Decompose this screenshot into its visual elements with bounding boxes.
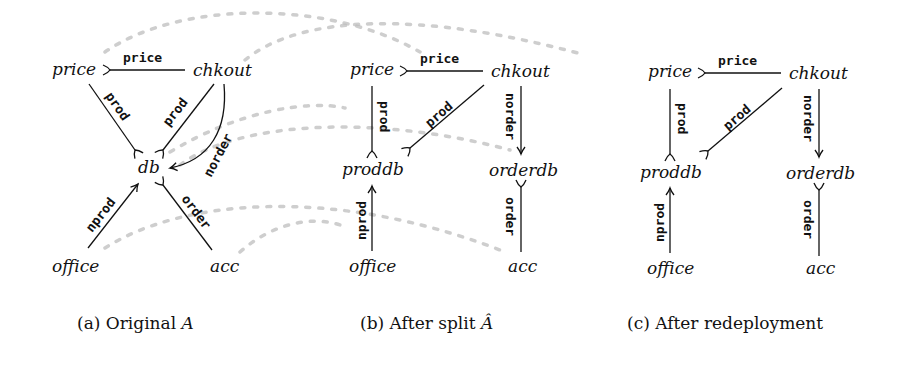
mapping-curve — [240, 221, 340, 252]
node-price: price — [648, 61, 692, 81]
mapping-curve — [105, 206, 500, 250]
edge-label-norder: norder — [801, 95, 816, 142]
mapping-curve — [245, 24, 585, 60]
caption-c-text: (c) After redeployment — [627, 313, 823, 333]
panel-b-split: price chkout proddb orderdb office acc p… — [342, 51, 558, 276]
node-proddb: proddb — [342, 159, 404, 179]
node-acc: acc — [508, 256, 538, 276]
caption-a-text: (a) Original — [77, 313, 182, 333]
edge-label-prod: prod — [103, 89, 133, 123]
panel-c-redeployment: price chkout proddb orderdb office acc p… — [640, 53, 855, 278]
edge-label-nprod: nprod — [652, 203, 667, 242]
node-acc: acc — [806, 258, 836, 278]
edge-label-price: price — [420, 51, 459, 66]
edge-label-order: order — [503, 197, 518, 236]
edge-label-norder: norder — [200, 131, 235, 180]
edge-label-nprod: nprod — [354, 201, 369, 240]
node-orderdb: orderdb — [786, 163, 855, 183]
caption-b: (b) After split Â — [360, 313, 493, 333]
node-office: office — [647, 258, 694, 278]
edge-label-price: price — [123, 50, 162, 65]
edge-label-norder: norder — [503, 93, 518, 140]
edge-label-prod: prod — [160, 95, 191, 129]
edge-label-prod: prod — [422, 98, 455, 130]
node-chkout: chkout — [193, 60, 252, 80]
caption-b-text: (b) After split — [360, 313, 481, 333]
node-acc: acc — [210, 256, 240, 276]
node-orderdb: orderdb — [489, 160, 558, 180]
panel-a-original: price chkout db office acc price prod pr… — [52, 50, 252, 276]
deployment-diagram: price chkout db office acc price prod pr… — [0, 0, 900, 367]
edge-label-prod: prod — [720, 101, 753, 133]
edge-label-prod: prod — [675, 103, 690, 134]
caption-a-symbol: A — [182, 313, 194, 333]
node-price: price — [350, 59, 394, 79]
caption-c: (c) After redeployment — [627, 313, 823, 333]
node-proddb: proddb — [640, 162, 702, 182]
caption-b-symbol: Â — [481, 313, 493, 333]
edge-label-nprod: nprod — [83, 195, 119, 235]
node-chkout: chkout — [789, 63, 848, 83]
node-chkout: chkout — [491, 61, 550, 81]
node-office: office — [349, 256, 396, 276]
node-price: price — [52, 59, 96, 79]
edge-label-order: order — [801, 200, 816, 239]
mapping-curve — [105, 13, 420, 52]
edge-label-price: price — [718, 53, 757, 68]
node-office: office — [52, 256, 99, 276]
edge-label-prod: prod — [377, 101, 392, 132]
caption-a: (a) Original A — [77, 313, 194, 333]
node-db: db — [138, 157, 160, 177]
